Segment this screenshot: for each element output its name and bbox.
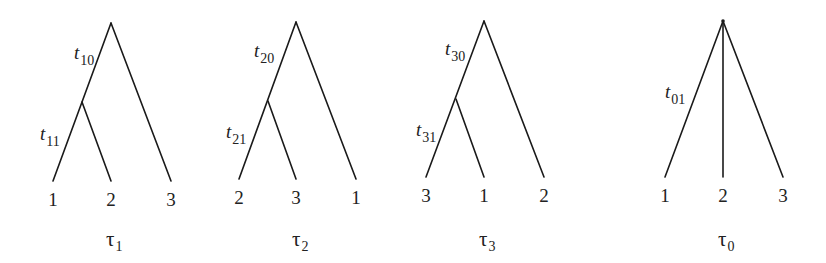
leaf-label: 2 (106, 189, 116, 210)
branch-root-to-leaf-right (296, 22, 356, 179)
tree-τ2: 231t20t21τ2 (226, 22, 361, 254)
branch-length-label: t20 (254, 40, 274, 66)
branch-root-to-leaf-3 (723, 21, 783, 177)
branch-length-label: t30 (445, 38, 465, 64)
leaf-label: 2 (539, 185, 549, 206)
leaf-label: 2 (234, 187, 244, 208)
branch-length-label: t31 (416, 119, 436, 145)
leaf-label: 3 (291, 187, 301, 208)
branch-internal-to-leaf-middle (82, 102, 111, 181)
leaf-label: 1 (351, 187, 361, 208)
branch-length-label: t10 (74, 42, 94, 68)
leaf-label: 1 (48, 189, 58, 210)
branch-internal-to-leaf-middle (268, 101, 296, 179)
leaf-label: 3 (421, 185, 431, 206)
leaf-label: 1 (479, 185, 489, 206)
root-node (721, 19, 725, 23)
tree-title: τ3 (479, 227, 495, 254)
phylogenetic-trees-diagram: 123t10t11τ1231t20t21τ2312t30t31τ3123t01τ… (0, 0, 826, 263)
tree-title: τ0 (718, 227, 734, 254)
tree-τ1: 123t10t11τ1 (40, 23, 176, 254)
branch-length-label: t11 (40, 123, 60, 149)
leaf-label: 1 (660, 185, 670, 206)
leaf-label: 3 (166, 189, 176, 210)
tree-title: τ2 (292, 227, 308, 254)
branch-root-to-leaf-right (111, 23, 171, 181)
tree-τ3: 312t30t31τ3 (416, 21, 549, 254)
leaf-label: 3 (778, 185, 788, 206)
branch-length-label: t01 (665, 81, 685, 107)
leaf-label: 2 (718, 185, 728, 206)
tree-title: τ1 (106, 227, 122, 254)
tree-τ0: 123t01τ0 (660, 19, 788, 254)
branch-internal-to-leaf-middle (456, 99, 484, 177)
branch-root-to-leaf-right (484, 21, 544, 177)
branch-length-label: t21 (226, 121, 246, 147)
